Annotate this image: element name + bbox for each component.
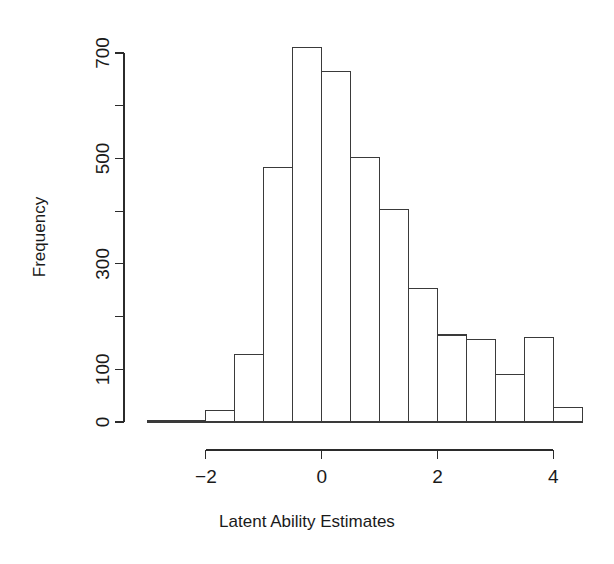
histogram-figure: 0100300500700 −2024 Latent Ability Estim… xyxy=(0,0,614,564)
x-axis xyxy=(206,450,553,459)
y-tick-label: 300 xyxy=(92,248,113,280)
histogram-bar xyxy=(235,355,264,422)
histogram-bar xyxy=(351,157,380,422)
x-tick-label: 2 xyxy=(432,466,443,487)
histogram-bar xyxy=(409,288,438,422)
histogram-bar xyxy=(466,339,495,422)
histogram-bar xyxy=(177,420,206,422)
histogram-bar xyxy=(264,168,293,422)
y-tick-label: 100 xyxy=(92,353,113,385)
histogram-bar xyxy=(553,408,582,422)
histogram-bar xyxy=(495,374,524,422)
y-axis-title: Frequency xyxy=(30,196,49,277)
x-tick-label: 4 xyxy=(548,466,559,487)
histogram-bar xyxy=(524,337,553,422)
histogram-bar xyxy=(293,47,322,422)
histogram-bar xyxy=(438,335,467,422)
x-tick-label: −2 xyxy=(195,466,217,487)
x-axis-title: Latent Ability Estimates xyxy=(219,512,395,531)
histogram-bar xyxy=(206,411,235,422)
histogram-bar xyxy=(322,71,351,422)
plot-canvas: 0100300500700 −2024 Latent Ability Estim… xyxy=(0,0,614,564)
y-tick-labels: 0100300500700 xyxy=(92,37,113,427)
histogram-bar xyxy=(380,209,409,422)
x-tick-label: 0 xyxy=(316,466,327,487)
bars-group xyxy=(148,47,582,422)
x-tick-labels: −2024 xyxy=(195,466,559,487)
y-tick-label: 0 xyxy=(92,417,113,428)
y-tick-label: 500 xyxy=(92,143,113,175)
y-tick-label: 700 xyxy=(92,37,113,69)
y-axis xyxy=(115,53,124,422)
histogram-bar xyxy=(148,421,177,422)
